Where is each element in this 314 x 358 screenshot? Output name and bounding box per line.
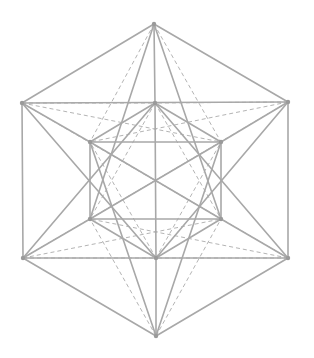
vertex-ILR xyxy=(219,217,223,221)
polyhedron-diagram xyxy=(0,0,314,358)
hidden-edge-T-IL xyxy=(90,24,154,142)
vertex-IT xyxy=(153,101,157,105)
visible-edge-LR-B xyxy=(156,258,288,336)
visible-edge-T-UL xyxy=(22,24,154,103)
visible-edge-LL-ILL xyxy=(23,219,90,258)
visible-edge-IB-ILL xyxy=(90,219,156,258)
visible-edge-T-UR xyxy=(154,24,288,102)
visible-edge-LR-ILR xyxy=(221,219,288,258)
visible-edge-T-IT xyxy=(154,24,155,103)
visible-edge-UR-IR xyxy=(221,102,288,142)
vertex-T xyxy=(152,22,156,26)
vertex-UL xyxy=(20,101,24,105)
vertex-IR xyxy=(219,140,223,144)
visible-edge-LL-B xyxy=(23,258,156,336)
visible-edges xyxy=(22,24,288,336)
vertex-LL xyxy=(21,256,25,260)
visible-edge-IB-ILR xyxy=(156,219,221,258)
visible-edge-UL-LL xyxy=(22,103,23,258)
visible-edge-IT-IR xyxy=(155,103,221,142)
vertex-ILL xyxy=(88,217,92,221)
visible-edge-IT-IL xyxy=(90,103,155,142)
vertex-B xyxy=(154,334,158,338)
vertex-UR xyxy=(286,100,290,104)
vertex-IB xyxy=(154,256,158,260)
vertex-LR xyxy=(286,256,290,260)
vertex-IL xyxy=(88,140,92,144)
hidden-edge-T-IR xyxy=(154,24,221,142)
visible-edge-UL-IL xyxy=(22,103,90,142)
